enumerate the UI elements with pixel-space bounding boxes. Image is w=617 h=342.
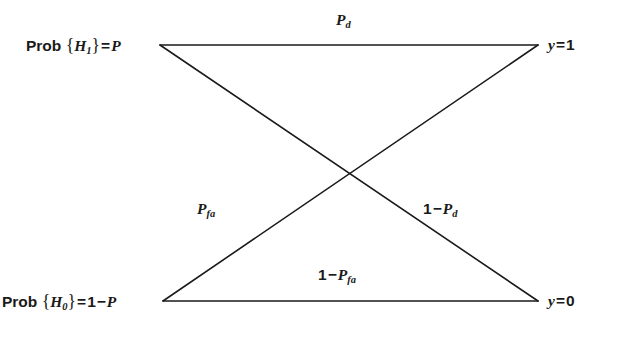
node-label-y1: y=1 [548,37,575,53]
edge-label-one-minus-pd: 1−Pd [423,201,457,219]
node-label-h1-equals: = [100,37,111,54]
node-label-h0-close-brace: } [68,291,77,311]
node-label-h1-value: P [111,37,120,54]
edge-label-one-minus-pfa-one: 1 [318,266,327,283]
edge-label-pfa-subscript: fa [206,208,215,219]
edge-label-one-minus-pd-subscript: d [452,208,457,219]
node-label-h0-one: 1 [87,293,96,310]
node-label-h0-equals: = [76,293,87,310]
edge-label-pfa: Pfa [197,201,215,219]
edge-label-pd: Pd [336,12,351,30]
node-label-h1-symbol: H [74,37,86,54]
node-label-h0-minus: − [96,293,107,310]
edge-label-one-minus-pd-one: 1 [423,200,432,217]
node-label-h0-open-brace: { [42,291,51,311]
edge-label-one-minus-pd-symbol: P [443,200,452,217]
edge-label-one-minus-pfa: 1−Pfa [318,267,356,285]
node-label-y1-equals: = [555,36,566,53]
edge-label-one-minus-pd-minus: − [432,200,443,217]
node-label-y1-value: 1 [566,36,575,53]
node-label-y0: y=0 [548,293,575,309]
node-label-h1-open-brace: { [66,35,75,55]
node-label-h1-close-brace: } [92,35,101,55]
edge-label-pd-subscript: d [345,19,350,30]
node-label-y0-equals: = [555,292,566,309]
node-label-y1-symbol: y [548,36,555,53]
node-label-h1-prefix: Prob [26,37,61,54]
node-label-h0: Prob {H0}=1−P [2,293,116,312]
node-label-h0-prefix: Prob [2,293,37,310]
edge-label-one-minus-pfa-subscript: fa [347,274,356,285]
node-label-h0-value: P [107,293,116,310]
node-label-h1: Prob {H1}=P [26,37,121,56]
node-label-y0-symbol: y [548,292,555,309]
edge-label-one-minus-pfa-symbol: P [338,266,347,283]
node-label-y0-value: 0 [566,292,575,309]
node-label-h0-symbol: H [50,293,62,310]
edge-label-one-minus-pfa-minus: − [327,266,338,283]
